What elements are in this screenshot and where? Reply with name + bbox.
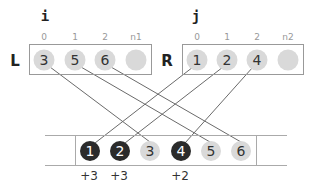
left-value-1: 5 bbox=[71, 52, 80, 68]
left-index-1: 1 bbox=[72, 32, 78, 42]
connection-L2-M5 bbox=[111, 67, 241, 142]
merge-diagram: i L 0 1 2 n1 3 5 6 j R 0 1 2 n2 1 2 4 bbox=[0, 0, 309, 192]
merged-delta-1: +3 bbox=[110, 169, 128, 183]
right-cell-sentinel bbox=[278, 50, 299, 71]
right-value-1: 2 bbox=[223, 52, 232, 68]
connection-lines bbox=[50, 67, 253, 143]
left-cell-sentinel bbox=[126, 50, 147, 71]
left-index-0: 0 bbox=[41, 32, 47, 42]
merged-value-2: 3 bbox=[146, 143, 155, 159]
merged-delta-0: +3 bbox=[80, 169, 98, 183]
merged-delta-3: +2 bbox=[171, 169, 189, 183]
merged-value-4: 5 bbox=[207, 143, 216, 159]
left-index-2: 2 bbox=[102, 32, 108, 42]
connection-R0-M0 bbox=[95, 67, 193, 143]
pointer-i: i bbox=[41, 8, 49, 24]
right-array: j R 0 1 2 n2 1 2 4 bbox=[161, 8, 303, 75]
merged-value-1: 2 bbox=[116, 143, 125, 159]
connection-R2-M3 bbox=[185, 67, 253, 143]
right-index-n2: n2 bbox=[282, 32, 293, 42]
connection-R1-M1 bbox=[125, 67, 223, 143]
left-array-label: L bbox=[10, 52, 20, 70]
right-value-2: 4 bbox=[253, 52, 262, 68]
merged-array: 1 2 3 4 5 6 +3 +3 +2 bbox=[45, 136, 287, 184]
merged-value-0: 1 bbox=[86, 143, 95, 159]
left-index-n1: n1 bbox=[130, 32, 141, 42]
right-index-1: 1 bbox=[224, 32, 230, 42]
left-value-0: 3 bbox=[40, 52, 49, 68]
merged-value-5: 6 bbox=[237, 143, 246, 159]
right-value-0: 1 bbox=[193, 52, 202, 68]
right-index-0: 0 bbox=[194, 32, 200, 42]
left-value-2: 6 bbox=[101, 52, 110, 68]
left-array: i L 0 1 2 n1 3 5 6 bbox=[10, 8, 151, 75]
merged-value-3: 4 bbox=[177, 143, 186, 159]
pointer-j: j bbox=[192, 8, 200, 24]
right-array-label: R bbox=[161, 52, 173, 70]
right-index-2: 2 bbox=[254, 32, 260, 42]
